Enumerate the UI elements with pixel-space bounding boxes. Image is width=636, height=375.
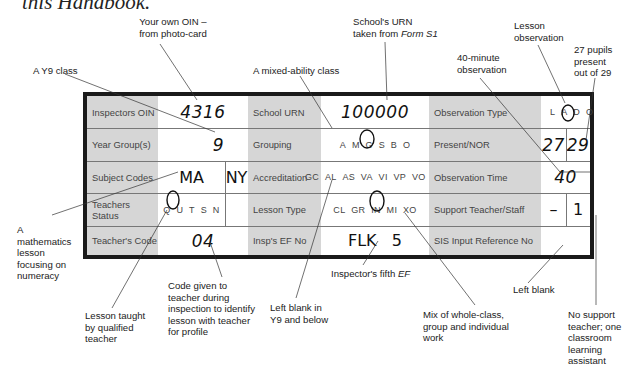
field-teachers-status[interactable]: Q U T S N — [158, 194, 225, 227]
field-observation-time[interactable]: 40 — [541, 161, 590, 194]
label-insp-ef-no: Insp's EF No — [248, 226, 321, 255]
note-obs40: 40-minute observation — [457, 52, 519, 75]
field-present[interactable]: 27 — [541, 129, 566, 162]
heading-fragment: this Handbook. — [22, 0, 150, 15]
option-D[interactable]: D — [573, 107, 580, 117]
field-grouping[interactable]: A M G S B O — [321, 129, 429, 162]
field-subject-code[interactable]: MA — [158, 161, 225, 194]
note-oin: Your own OIN – from photo-card — [133, 16, 213, 39]
option-A[interactable]: A — [561, 107, 567, 117]
field-school-urn[interactable]: 100000 — [321, 96, 429, 129]
option-VO[interactable]: VO — [412, 172, 426, 182]
note-code: Code given to teacher during inspection … — [168, 280, 260, 338]
label-year-groups: Year Group(s) — [87, 129, 158, 162]
option-MI[interactable]: MI — [387, 205, 398, 215]
form-row-3: Subject Codes MA NY Accreditation GC AL … — [87, 161, 590, 194]
field-support-teacher[interactable]: – — [541, 194, 566, 227]
label-inspectors-oin: Inspectors OIN — [87, 96, 158, 129]
option-VI[interactable]: VI — [379, 172, 388, 182]
field-inspectors-oin[interactable]: 4316 — [158, 96, 248, 129]
label-sis-input-ref: SIS Input Reference No — [429, 226, 541, 255]
label-observation-type: Observation Type — [429, 96, 541, 129]
option-A[interactable]: A — [340, 140, 346, 150]
note-urn: School's URN taken from Form S1 — [353, 16, 438, 39]
label-lesson-type: Lesson Type — [248, 194, 321, 227]
label-support-teacher-staff: Support Teacher/Staff — [429, 194, 541, 227]
label-observation-time: Observation Time — [429, 161, 541, 194]
observation-form: Inspectors OIN 4316 School URN 100000 Ob… — [83, 92, 594, 259]
option-AL[interactable]: AL — [325, 172, 337, 182]
option-M[interactable]: M — [352, 140, 360, 150]
col-divider — [566, 128, 567, 161]
note-pupils: 27 pupils present out of 29 — [574, 44, 620, 79]
label-subject-codes: Subject Codes — [87, 161, 158, 194]
option-VA[interactable]: VA — [361, 172, 373, 182]
field-insp-ef-no[interactable]: FLK 5 — [321, 226, 429, 255]
option-L[interactable]: L — [550, 107, 555, 117]
field-observation-type[interactable]: L A D O — [541, 96, 590, 129]
label-present-nor: Present/NOR — [429, 129, 541, 162]
option-IN[interactable]: IN — [371, 205, 381, 215]
field-lesson-type[interactable]: CL GR IN MI XO — [321, 194, 429, 227]
option-N[interactable]: N — [213, 205, 220, 215]
form-row-2: Year Group(s) 9 Grouping A M G S B O Pre… — [87, 129, 590, 162]
row-divider — [87, 193, 590, 194]
option-O[interactable]: O — [586, 107, 593, 117]
option-S[interactable]: S — [201, 205, 207, 215]
form-row-4: Teachers Status Q U T S N Lesson Type CL… — [87, 194, 590, 227]
note-left-blank: Left blank — [513, 284, 555, 296]
note-mix: Mix of whole-class, group and individual… — [423, 309, 513, 344]
note-qualified: Lesson taught by qualified teacher — [85, 310, 147, 345]
label-grouping: Grouping — [248, 129, 321, 162]
option-XO[interactable]: XO — [403, 205, 417, 215]
option-Q[interactable]: Q — [163, 205, 170, 215]
row-divider — [87, 128, 590, 129]
note-lesson-obs: Lesson observation — [514, 20, 569, 43]
row-divider — [87, 161, 590, 162]
field-subject-code-2[interactable]: NY — [225, 161, 248, 194]
field-nor[interactable]: 29 — [566, 129, 590, 162]
field-teachers-code[interactable]: 04 — [158, 226, 248, 255]
option-AS[interactable]: AS — [342, 172, 355, 182]
note-ef: Inspector's fifth EF — [331, 268, 410, 280]
option-GC[interactable]: GC — [305, 172, 319, 182]
option-O[interactable]: O — [403, 140, 410, 150]
col-divider — [225, 161, 226, 226]
option-GR[interactable]: GR — [351, 205, 365, 215]
option-U[interactable]: U — [176, 205, 183, 215]
form-row-5: Teacher's Code 04 Insp's EF No FLK 5 SIS… — [87, 226, 590, 255]
option-G[interactable]: G — [366, 140, 373, 150]
note-maths: A mathematics lesson focusing on numerac… — [17, 224, 79, 282]
option-T[interactable]: T — [189, 205, 195, 215]
label-teachers-code: Teacher's Code — [87, 226, 158, 255]
form-row-1: Inspectors OIN 4316 School URN 100000 Ob… — [87, 96, 590, 129]
note-support: No support teacher; one classroom learni… — [568, 309, 628, 367]
label-school-urn: School URN — [248, 96, 321, 129]
field-accreditation[interactable]: GC AL AS VA VI VP VO XO — [321, 161, 429, 194]
col-divider — [566, 193, 567, 226]
note-mixed: A mixed-ability class — [253, 65, 339, 77]
field-sis-input-ref[interactable] — [541, 226, 590, 255]
note-y9: A Y9 class — [33, 65, 78, 77]
option-CL[interactable]: CL — [333, 205, 345, 215]
option-VP[interactable]: VP — [394, 172, 407, 182]
option-B[interactable]: B — [391, 140, 397, 150]
field-support-staff[interactable]: 1 — [566, 194, 590, 227]
label-teachers-status: Teachers Status — [87, 194, 158, 227]
row-divider — [87, 226, 590, 227]
option-S[interactable]: S — [379, 140, 385, 150]
field-year-groups[interactable]: 9 — [158, 129, 248, 162]
note-blank-y9: Left blank in Y9 and below — [270, 302, 332, 325]
